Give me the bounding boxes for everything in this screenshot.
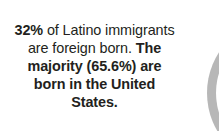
callout-percent-bold: 32% bbox=[15, 22, 44, 38]
callout-statistic-text: 32% of Latino immigrants are foreign bor… bbox=[0, 14, 219, 131]
infographic-callout: 32% of Latino immigrants are foreign bor… bbox=[0, 0, 219, 131]
